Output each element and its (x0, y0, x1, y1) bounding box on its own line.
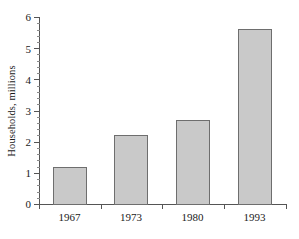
x-tick-label-1993: 1993 (244, 211, 267, 223)
y-tick-label-0: 0 (26, 198, 32, 210)
bar-1967 (53, 167, 86, 204)
bar-1980 (176, 120, 209, 204)
chart-canvas: 0 1 2 3 4 5 6 Households, millions 1967 … (0, 0, 299, 239)
y-tick-label-1: 1 (26, 167, 32, 179)
y-tick-label-5: 5 (26, 43, 32, 55)
y-tick-label-2: 2 (26, 136, 32, 148)
y-axis-title: Households, millions (6, 65, 17, 156)
y-tick-label-6: 6 (26, 11, 32, 23)
x-tick-label-1973: 1973 (120, 211, 143, 223)
x-tick-label-1980: 1980 (182, 211, 205, 223)
x-tick-label-1967: 1967 (59, 211, 82, 223)
bar-1973 (114, 136, 147, 205)
bar-1993 (238, 30, 271, 205)
bar-chart-figure: 0 1 2 3 4 5 6 Households, millions 1967 … (0, 0, 299, 239)
y-tick-label-3: 3 (26, 105, 32, 117)
y-tick-label-4: 4 (26, 74, 32, 86)
